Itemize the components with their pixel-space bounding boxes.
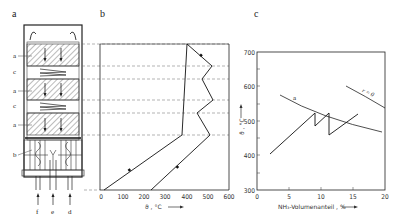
svg-text:300: 300: [159, 193, 170, 201]
callout-b: b: [13, 151, 17, 159]
svg-text:500: 500: [244, 118, 255, 126]
y-axis-label: ϑ , °C: [238, 118, 245, 135]
catalyst-bed-3: [27, 113, 79, 135]
catalyst-bed-2: [27, 79, 79, 100]
level-guide-lines: [82, 44, 229, 190]
flow-arrow-icon: [30, 32, 36, 40]
figure: a: [0, 0, 404, 222]
svg-text:400: 400: [181, 193, 192, 201]
svg-text:10: 10: [317, 193, 325, 201]
x-axis-label: NH₃-Volumenanteil , %: [278, 203, 346, 210]
svg-text:500: 500: [202, 193, 213, 201]
panel-b-temperature-profile: b 0 100 200 300 400 500 600 ϑ , °C: [99, 8, 235, 210]
callout-a-2: a: [13, 87, 17, 95]
label-d: d: [68, 208, 72, 216]
callout-c-2: c: [13, 102, 16, 110]
intercooler-1: [40, 69, 66, 76]
panel-a-label: a: [12, 8, 17, 19]
panel-c-label: c: [254, 8, 259, 19]
svg-text:5: 5: [287, 193, 291, 201]
svg-text:300: 300: [244, 187, 255, 195]
svg-text:600: 600: [244, 83, 255, 91]
flow-arrow-icon: [70, 32, 76, 40]
svg-text:600: 600: [223, 193, 234, 201]
label-e: e: [51, 208, 54, 216]
callout-a-3: a: [13, 121, 17, 129]
callout-a-1: a: [13, 52, 17, 60]
catalyst-bed-1: [27, 44, 79, 66]
svg-text:0: 0: [99, 193, 103, 201]
svg-text:400: 400: [244, 152, 255, 160]
panel-b-label: b: [100, 8, 105, 19]
callout-c-1: c: [13, 68, 16, 76]
panel-a-reactor: a: [12, 8, 84, 216]
svg-text:200: 200: [138, 193, 149, 201]
intercooler-2: [40, 103, 66, 110]
curve-r0-label: r = 0: [361, 87, 375, 98]
x-axis-label: ϑ , °C: [145, 203, 162, 210]
inlet-outlet-pipes: [36, 160, 72, 205]
svg-text:15: 15: [349, 193, 357, 201]
svg-text:20: 20: [381, 193, 389, 201]
curve-a-label: a: [293, 94, 297, 102]
svg-text:700: 700: [244, 49, 255, 57]
label-f: f: [36, 208, 39, 216]
heat-exchanger: [24, 140, 82, 170]
svg-text:100: 100: [117, 193, 128, 201]
operating-line: [270, 113, 358, 154]
panel-c-equilibrium-chart: c 700 600 500 400 300 0 5 10 15 20 NH₃-V…: [238, 8, 389, 210]
svg-text:0: 0: [255, 193, 259, 201]
